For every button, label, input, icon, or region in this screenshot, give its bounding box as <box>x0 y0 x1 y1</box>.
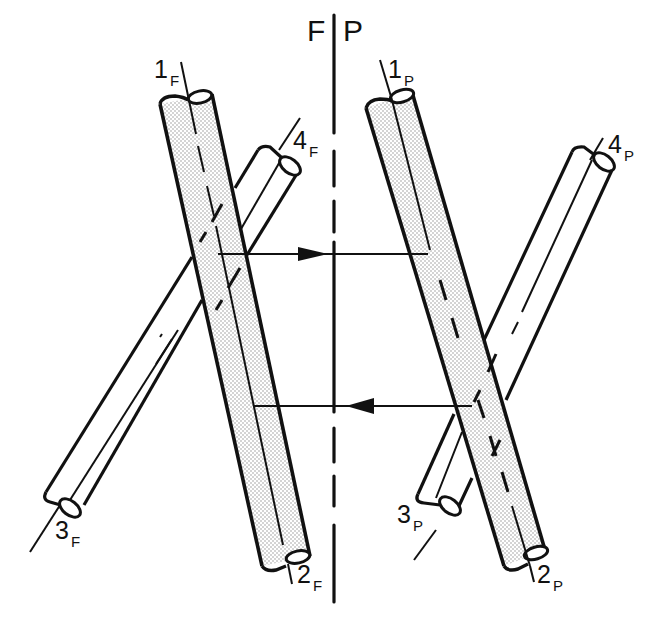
arrow-left-icon <box>346 398 374 414</box>
label-2p: 2P <box>537 562 563 587</box>
label-3p: 3P <box>397 502 423 527</box>
label-3f: 3F <box>55 518 80 543</box>
rod-1f-2f <box>160 62 311 584</box>
front-plane-label: F <box>307 16 325 46</box>
label-1p: 1P <box>388 57 414 82</box>
label-4p: 4P <box>608 132 634 157</box>
arrow-right-icon <box>298 247 328 261</box>
profile-plane-label: P <box>343 16 363 46</box>
label-2f: 2F <box>297 562 322 587</box>
label-1f: 1F <box>154 57 179 82</box>
projector-lower <box>254 398 472 414</box>
line-intersection-diagram <box>0 0 657 628</box>
label-4f: 4F <box>293 128 318 153</box>
